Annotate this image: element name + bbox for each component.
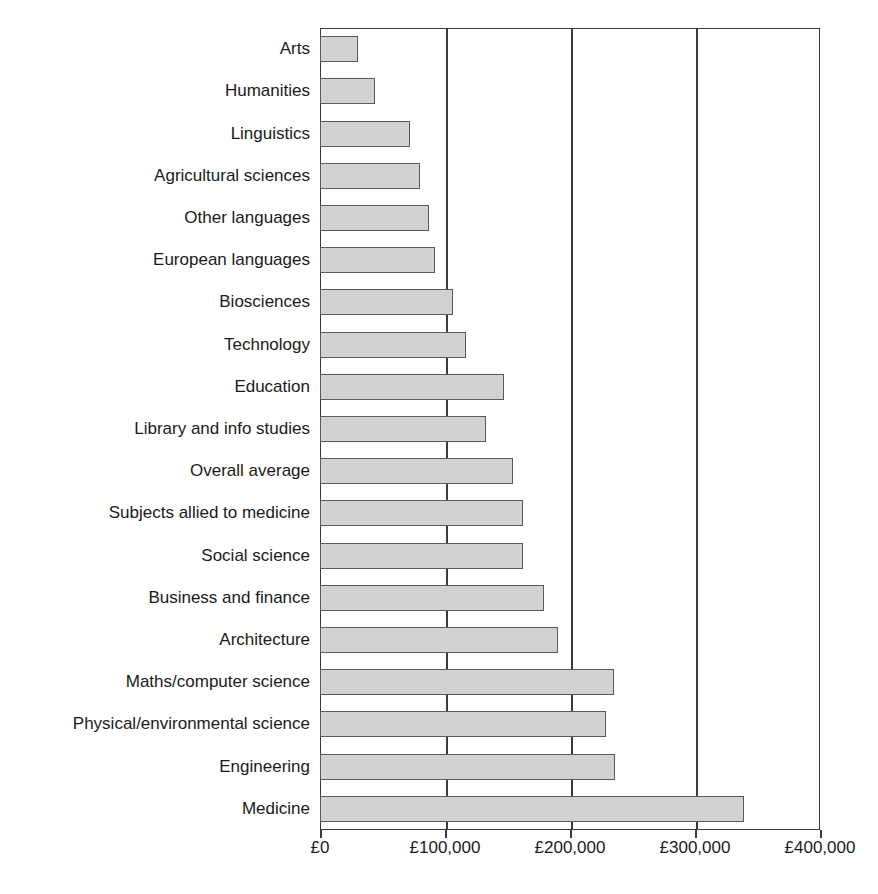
category-label: Arts [0,36,310,62]
bar-chart-figure: ArtsHumanitiesLinguisticsAgricultural sc… [0,0,878,894]
bar-rect [320,669,614,695]
x-tick-mark [695,830,697,838]
x-tick-label: £100,000 [410,838,481,858]
bar-architecture [320,627,558,653]
bar-engineering [320,754,615,780]
value-axis-labels: £0£100,000£200,000£300,000£400,000 [0,838,878,878]
bar-rect [320,458,513,484]
category-label: Agricultural sciences [0,163,310,189]
bar-rect [320,205,429,231]
bar-rect [320,78,375,104]
bar-humanities [320,78,375,104]
x-tick-mark [570,830,572,838]
bars-layer [320,28,820,830]
x-tick-label: £200,000 [535,838,606,858]
bar-rect [320,754,615,780]
x-tick-label: £300,000 [660,838,731,858]
bar-biosciences [320,289,453,315]
x-tick-mark [320,830,322,838]
bar-subjects-allied-to-medicine [320,500,523,526]
category-label: Maths/computer science [0,669,310,695]
category-label: Overall average [0,458,310,484]
bar-rect [320,121,410,147]
bar-education [320,374,504,400]
bar-agricultural-sciences [320,163,420,189]
bar-rect [320,163,420,189]
category-label: Business and finance [0,585,310,611]
bar-rect [320,247,435,273]
category-label: Education [0,374,310,400]
category-label: Library and info studies [0,416,310,442]
bar-european-languages [320,247,435,273]
x-tick-mark [820,830,822,838]
category-label: Humanities [0,78,310,104]
bar-maths-computer-science [320,669,614,695]
bar-rect [320,796,744,822]
category-label: Linguistics [0,121,310,147]
bar-medicine [320,796,744,822]
bar-physical-environmental-science [320,711,606,737]
category-label: Engineering [0,754,310,780]
bar-social-science [320,543,523,569]
category-label: Subjects allied to medicine [0,500,310,526]
x-tick-mark [445,830,447,838]
bar-business-and-finance [320,585,544,611]
category-label: Medicine [0,796,310,822]
bar-overall-average [320,458,513,484]
category-label: Architecture [0,627,310,653]
category-axis-labels: ArtsHumanitiesLinguisticsAgricultural sc… [0,28,310,830]
bar-other-languages [320,205,429,231]
category-label: Technology [0,332,310,358]
bar-linguistics [320,121,410,147]
bar-rect [320,500,523,526]
bar-rect [320,36,358,62]
bar-rect [320,374,504,400]
bar-rect [320,585,544,611]
bar-technology [320,332,466,358]
bar-rect [320,416,486,442]
bar-arts [320,36,358,62]
bar-rect [320,627,558,653]
bar-rect [320,543,523,569]
category-label: European languages [0,247,310,273]
bar-library-and-info-studies [320,416,486,442]
x-tick-label: £0 [311,838,330,858]
bar-rect [320,289,453,315]
bar-rect [320,711,606,737]
category-label: Social science [0,543,310,569]
bar-rect [320,332,466,358]
category-label: Biosciences [0,289,310,315]
category-label: Physical/environmental science [0,711,310,737]
x-tick-label: £400,000 [785,838,856,858]
category-label: Other languages [0,205,310,231]
